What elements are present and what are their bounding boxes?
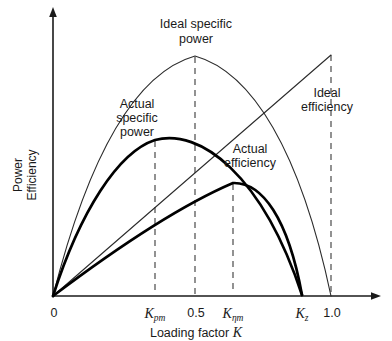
x-tick-kz-subscript: z <box>304 313 309 323</box>
annotation-ideal-efficiency-line2: efficiency <box>301 100 354 114</box>
x-tick-label-kpm: Kpm <box>144 306 166 323</box>
x-tick-label-origin: 0 <box>51 306 58 320</box>
y-axis-arrow-icon <box>49 7 57 17</box>
curve-actual-efficiency <box>53 183 302 296</box>
annotations-group: Ideal specific power Actual specific pow… <box>116 17 354 170</box>
x-axis-title: Loading factor K <box>150 325 243 340</box>
annotation-actual-efficiency-line1: Actual <box>233 142 268 156</box>
x-axis-title-text: Loading factor <box>150 326 233 340</box>
x-tick-label-one: 1.0 <box>323 306 340 320</box>
x-axis-title-symbol: K <box>232 325 243 340</box>
annotation-actual-specific-power-line2: specific <box>116 111 158 125</box>
x-tick-label-kz: Kz <box>294 306 308 323</box>
x-tick-label-ketam: Kηm <box>222 306 244 323</box>
y-axis-title-line2: Efficiency <box>25 149 39 200</box>
dashed-guides-group <box>155 55 331 294</box>
y-axis-title-line1: Power <box>11 158 25 192</box>
x-tick-kz-symbol: K <box>294 306 305 321</box>
annotation-ideal-efficiency-line1: Ideal <box>313 86 340 100</box>
chart-figure: 0 Kpm 0.5 Kηm Kz 1.0 Loading factor K Po… <box>0 0 392 341</box>
annotation-actual-specific-power-line3: power <box>120 125 154 139</box>
x-tick-kpm-symbol: K <box>144 306 155 321</box>
curves-group <box>53 55 331 296</box>
x-tick-labels-group: 0 Kpm 0.5 Kηm Kz 1.0 <box>51 306 341 323</box>
x-tick-ketam-subscript: ηm <box>232 313 244 323</box>
annotation-ideal-specific-power-line1: Ideal specific <box>160 17 232 31</box>
annotation-actual-specific-power-line1: Actual <box>120 97 155 111</box>
x-tick-kpm-subscript: pm <box>153 313 166 323</box>
y-axis-title-group: Power Efficiency <box>11 149 39 200</box>
x-tick-ketam-symbol: K <box>222 306 233 321</box>
x-axis-arrow-icon <box>371 292 381 300</box>
annotation-actual-efficiency-line2: efficiency <box>224 156 277 170</box>
x-tick-label-half: 0.5 <box>187 306 204 320</box>
chart-svg: 0 Kpm 0.5 Kηm Kz 1.0 Loading factor K Po… <box>0 0 392 341</box>
annotation-ideal-specific-power-line2: power <box>179 32 213 46</box>
